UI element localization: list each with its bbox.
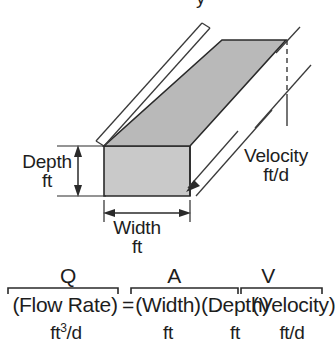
equation-unit-flow-rate-tail: /d xyxy=(67,322,82,343)
equation-symbol-v: V xyxy=(232,264,304,288)
equation-term-velocity: (Velocity) xyxy=(252,293,332,317)
equation-unit-velocity: ft/d xyxy=(252,322,332,344)
equation-unit-width: ft xyxy=(130,322,206,344)
prism-top-face xyxy=(104,40,286,146)
equation-symbol-q: Q xyxy=(24,264,112,288)
depth-label-name: Depth xyxy=(4,152,90,171)
prism-front-face xyxy=(104,146,190,196)
equation-unit-flow-rate-base: ft xyxy=(50,322,60,343)
velocity-label: Velocity ft/d xyxy=(226,146,326,185)
depth-label-unit: ft xyxy=(4,171,90,190)
flow-rate-equation: Q A V (Flow Rate) = (Width) (Depth) (Vel… xyxy=(0,262,329,359)
equation-unit-flow-rate: ft3/d xyxy=(22,322,110,344)
velocity-dimension-line-mid xyxy=(255,65,311,128)
velocity-label-unit: ft/d xyxy=(226,165,326,184)
equation-term-width: (Width) xyxy=(130,293,206,317)
width-arrowhead-right xyxy=(179,209,191,217)
depth-label: Depth ft xyxy=(4,152,90,191)
velocity-label-name: Velocity xyxy=(226,146,326,165)
width-label-unit: ft xyxy=(94,237,180,256)
prism-back-left-cap xyxy=(96,141,104,146)
equation-term-flow-rate: (Flow Rate) xyxy=(6,293,124,317)
width-label: Width ft xyxy=(94,218,180,257)
width-arrowhead-left xyxy=(103,209,115,217)
prism-back-left-top-cap xyxy=(202,23,210,28)
equation-symbol-a: A xyxy=(128,264,220,288)
width-label-name: Width xyxy=(94,218,180,237)
